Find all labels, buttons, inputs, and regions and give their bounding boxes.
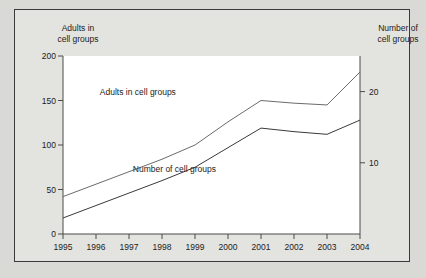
series-annotation-label: Number of cell groups [133,164,216,174]
series-annotation-label: Adults in cell groups [100,87,176,97]
chart-frame: Adults in cell groups Number of cell gro… [14,9,410,262]
